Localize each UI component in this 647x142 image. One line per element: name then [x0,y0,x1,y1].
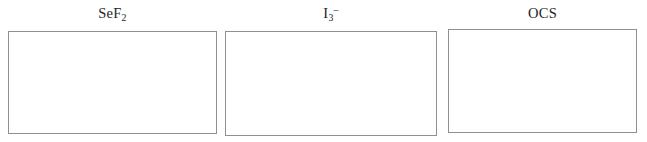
answer-box-i3-minus[interactable] [225,31,437,136]
molecule-panel-i3-minus: I3– [225,2,437,138]
answer-box-ocs[interactable] [448,29,637,133]
molecule-label-i3-charge-superscript: – [334,4,339,15]
molecule-label-sef2-subscript: 2 [122,12,127,23]
molecule-label-sef2-base: SeF [98,5,121,21]
molecule-label-i3-minus: I3– [225,6,437,21]
answer-box-sef2[interactable] [8,31,217,134]
molecule-label-sef2: SeF2 [8,6,217,21]
molecule-panel-ocs: OCS [448,2,637,138]
lewis-structure-worksheet: SeF2 I3– OCS [0,0,647,142]
molecule-label-ocs-base: OCS [528,5,557,21]
molecule-panel-sef2: SeF2 [8,2,217,138]
molecule-label-ocs: OCS [448,6,637,21]
